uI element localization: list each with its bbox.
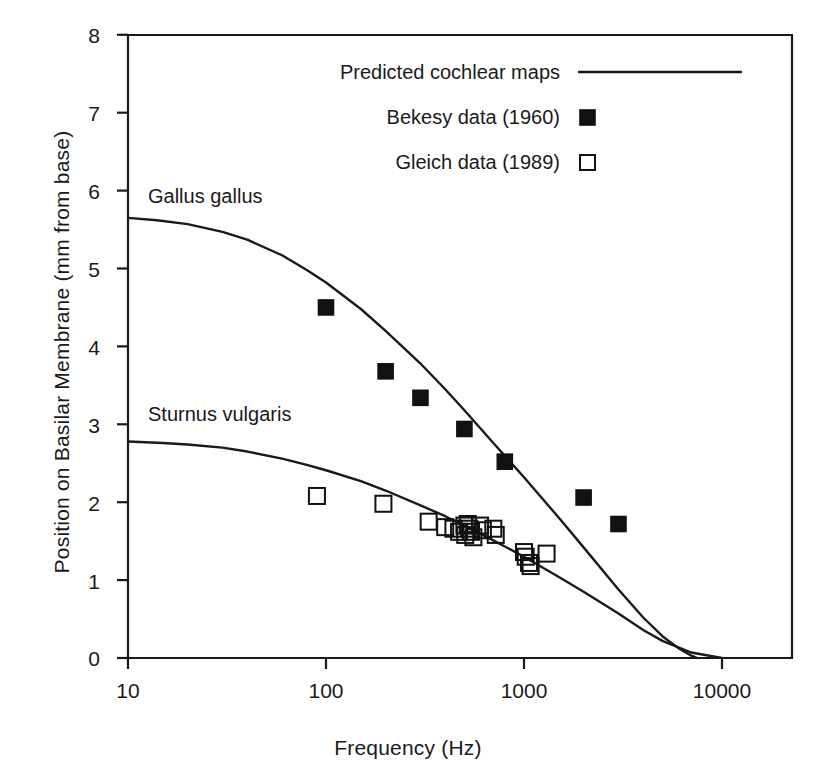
y-tick-label-0: 0 <box>60 648 100 669</box>
legend-marker-filled-square <box>580 110 595 125</box>
annotation-sturnus-vulgaris: Sturnus vulgaris <box>148 404 291 424</box>
bekesy-data-point <box>378 364 393 379</box>
legend-markers-layer <box>578 72 742 170</box>
predicted-curve-sturnus-vulgaris <box>128 441 722 658</box>
bekesy-data-point <box>319 300 334 315</box>
predicted-curves-layer <box>128 218 722 658</box>
y-tick-label-6: 6 <box>60 181 100 202</box>
x-tick-label-100: 100 <box>266 680 386 701</box>
plot-frame <box>128 35 792 658</box>
gleich-data-point <box>309 488 325 504</box>
bekesy-data-point <box>413 390 428 405</box>
x-tick-label-10: 10 <box>68 680 188 701</box>
bekesy-data-point <box>611 517 626 532</box>
legend-label-predicted-cochlear-maps: Predicted cochlear maps <box>220 62 560 82</box>
y-tick-label-3: 3 <box>60 415 100 436</box>
bekesy-data-point <box>457 421 472 436</box>
predicted-curve-gallus-gallus <box>128 218 697 658</box>
gleich-data-point <box>539 546 555 562</box>
cochlear-map-figure: Position on Basilar Membrane (mm from ba… <box>0 0 816 781</box>
axes-layer <box>117 35 792 669</box>
bekesy-data-point <box>497 454 512 469</box>
y-tick-label-8: 8 <box>60 25 100 46</box>
data-points-layer <box>309 300 626 574</box>
y-tick-label-5: 5 <box>60 259 100 280</box>
legend-label-gleich-data: Gleich data (1989) <box>220 152 560 172</box>
x-tick-label-1000: 1000 <box>464 680 584 701</box>
annotation-gallus-gallus: Gallus gallus <box>148 186 263 206</box>
y-tick-label-1: 1 <box>60 571 100 592</box>
bekesy-data-point <box>576 490 591 505</box>
gleich-data-point <box>375 496 391 512</box>
x-axis-title: Frequency (Hz) <box>0 736 816 760</box>
y-tick-label-7: 7 <box>60 103 100 124</box>
legend-label-bekesy-data: Bekesy data (1960) <box>220 107 560 127</box>
gleich-data-point <box>421 514 437 530</box>
y-tick-label-4: 4 <box>60 337 100 358</box>
legend-marker-open-square <box>580 155 595 170</box>
y-tick-label-2: 2 <box>60 493 100 514</box>
x-tick-label-10000: 10000 <box>662 680 782 701</box>
